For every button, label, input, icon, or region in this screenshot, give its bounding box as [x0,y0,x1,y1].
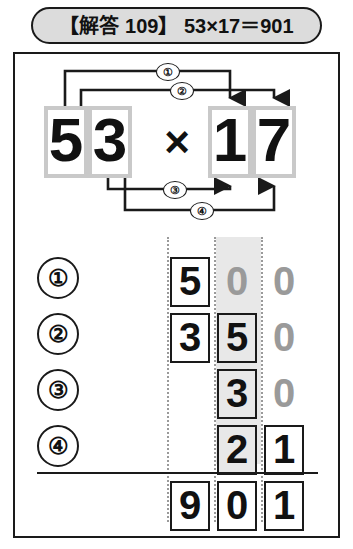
row-label-2: ② [37,313,79,355]
connector-label-1: ① [156,63,180,81]
connector-label-2: ② [170,82,194,100]
multiplicand-tens-box: 5 [44,106,88,178]
multiplication-operator: × [151,106,203,178]
column-separator-right [261,237,263,522]
connector-label-4: ④ [190,202,214,220]
multiplier-tens-box: 1 [208,106,252,178]
table-row-3-cell-hundreds [170,369,210,419]
result-cell-hundreds: 9 [170,481,210,531]
row-label-4: ④ [37,425,79,467]
multiplicand-tens-digit: 5 [49,109,83,171]
table-row-1-cell-ones: 0 [264,257,304,307]
cell-value: 1 [273,485,295,525]
cell-value: 0 [226,485,248,525]
worksheet-page: 【解答 109】 53×17＝901 [0,0,353,549]
connector-label-3: ③ [163,181,187,199]
result-cell-tens: 0 [217,481,257,531]
equation-region: 5 3 × 1 7 ① ② ③ ④ [15,54,338,229]
cell-value: 2 [226,429,248,469]
cell-value: 5 [226,317,248,357]
cell-value: 1 [273,429,295,469]
sum-rule-line [37,472,318,474]
cell-value: 0 [226,261,248,301]
cell-value: 0 [273,373,295,413]
table-row-3-cell-tens: 3 [217,369,257,419]
table-row-1-cell-hundreds: 5 [170,257,210,307]
multiplier-ones-box: 7 [252,106,296,178]
cell-value: 5 [179,261,201,301]
table-row-2-cell-ones: 0 [264,313,304,363]
cell-value: 9 [179,485,201,525]
multiplicand-ones-box: 3 [88,106,132,178]
table-row-4-cell-hundreds [170,425,210,475]
column-separator-left [167,237,169,522]
multiplicand-ones-digit: 3 [93,109,127,171]
answer-header-pill: 【解答 109】 53×17＝901 [31,7,322,44]
content-frame: 5 3 × 1 7 ① ② ③ ④ 1 [13,52,340,538]
partial-products-grid: 1 ① ② ③ ④ 5 0 0 3 5 0 [15,229,338,536]
cell-value: 3 [179,317,201,357]
cell-value: 3 [226,373,248,413]
table-row-3-cell-ones: 0 [264,369,304,419]
row-label-3: ③ [37,369,79,411]
table-row-4-cell-ones: 1 [264,425,304,475]
multiplier-tens-digit: 1 [213,109,247,171]
cell-value: 0 [273,261,295,301]
column-separator-middle [214,237,216,522]
table-row-4-cell-tens: 2 [217,425,257,475]
result-cell-ones: 1 [264,481,304,531]
table-row-2-cell-hundreds: 3 [170,313,210,363]
page-title: 【解答 109】 53×17＝901 [59,16,293,36]
table-row-1-cell-tens: 0 [217,257,257,307]
multiplier-ones-digit: 7 [257,109,291,171]
cell-value: 0 [273,317,295,357]
table-row-2-cell-tens: 5 [217,313,257,363]
row-label-1: ① [37,257,79,299]
